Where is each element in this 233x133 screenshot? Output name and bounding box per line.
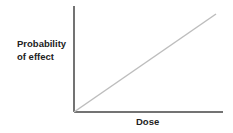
response-line xyxy=(74,14,216,112)
y-axis-label-line1: Probability xyxy=(17,37,66,50)
y-axis-label: Probability of effect xyxy=(17,37,66,63)
y-axis-label-line2: of effect xyxy=(17,50,66,63)
x-axis-label: Dose xyxy=(136,116,159,127)
dose-response-plot xyxy=(0,0,233,133)
